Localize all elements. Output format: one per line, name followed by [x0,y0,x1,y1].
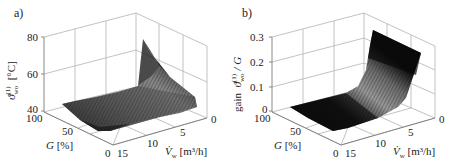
chart-panel-b: b) 0.3 0.2 0.1 0 gain ϑ(1)wo / G 100 50 … [228,0,457,168]
g-tick-0: 0 [333,148,339,159]
v-tick-15: 15 [345,148,356,159]
v-axis-label-a: V̇w [m³/h] [165,146,207,160]
z-tick-0.2: 0.2 [250,57,264,68]
surface-a [62,39,197,131]
v-tick-0: 0 [439,114,445,125]
v-tick-15: 15 [117,148,128,159]
chart-panel-a: a) 80 60 40 ϑ(1)wo [°C] 100 50 0 G [%] 1… [0,0,229,168]
g-tick-50: 50 [62,126,73,137]
g-axis-label-b: G [%] [274,140,301,151]
z-tick-60: 60 [27,69,38,80]
z-tick-80: 80 [27,32,38,43]
z-axis-label-b: gain ϑ(1)wo / G [231,57,246,112]
z-axis-label-a: ϑ(1)wo [°C] [5,61,20,100]
surface-plot-a [0,0,229,168]
g-tick-100: 100 [26,113,43,124]
g-tick-50: 50 [290,126,301,137]
v-tick-5: 5 [408,127,414,138]
z-tick-0.3: 0.3 [250,32,264,43]
panel-label-b: b) [242,7,252,19]
surface-b [290,30,421,131]
g-tick-100: 100 [254,113,271,124]
v-tick-10: 10 [375,138,386,149]
g-tick-0: 0 [105,148,111,159]
v-tick-10: 10 [147,138,158,149]
v-tick-0: 0 [211,114,217,125]
v-axis-label-b: V̇w [m³/h] [393,146,435,160]
v-tick-5: 5 [180,127,186,138]
z-tick-0.1: 0.1 [250,82,264,93]
g-axis-label-a: G [%] [46,140,73,151]
panel-label-a: a) [14,7,23,19]
